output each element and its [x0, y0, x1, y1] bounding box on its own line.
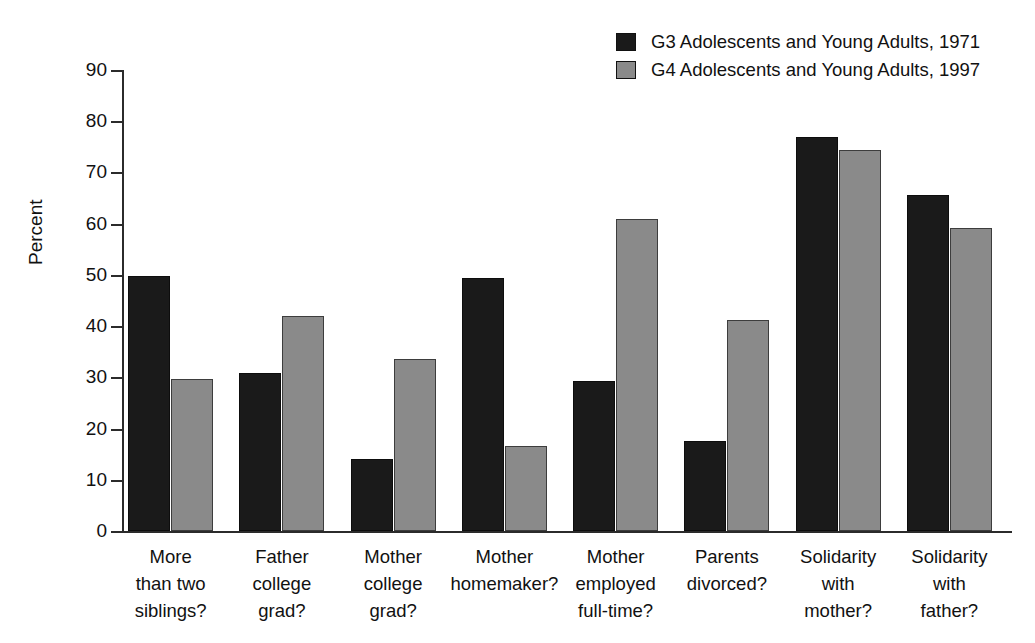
x-axis-category-line: with	[884, 570, 1014, 597]
y-axis-tick-value: 20	[59, 419, 107, 438]
y-axis-tick	[111, 480, 122, 482]
x-axis-category-line: Solidarity	[884, 543, 1014, 570]
y-axis-tick-label: 20	[47, 419, 107, 438]
plot-area: Percent 0102030405060708090	[122, 70, 1012, 531]
y-axis-tick-value: 10	[59, 470, 107, 489]
y-axis-tick-value: 40	[59, 316, 107, 335]
bar	[394, 359, 436, 531]
y-axis-tick	[111, 531, 122, 533]
y-axis-tick	[111, 224, 122, 226]
bar	[907, 195, 949, 531]
legend-item-g3: G3 Adolescents and Young Adults, 1971	[616, 28, 1035, 56]
y-axis-tick	[111, 377, 122, 379]
y-axis-tick-label: 10	[47, 470, 107, 489]
y-axis-tick	[111, 429, 122, 431]
bar	[462, 278, 504, 531]
y-axis-tick-value: 70	[59, 162, 107, 181]
x-axis-labels: Morethan twosiblings?Fathercollegegrad?M…	[122, 543, 1012, 643]
legend-label-g3: G3 Adolescents and Young Adults, 1971	[651, 33, 980, 52]
bar	[616, 219, 658, 531]
bar	[505, 446, 547, 531]
bar	[839, 150, 881, 531]
bar	[684, 441, 726, 531]
bar	[171, 379, 213, 531]
y-axis-title: Percent	[25, 200, 47, 265]
bar	[239, 373, 281, 531]
y-axis-tick-label: 40	[47, 316, 107, 335]
x-axis-category-label: Solidaritywithfather?	[884, 543, 1014, 624]
bar	[796, 137, 838, 531]
y-axis-tick-value: 90	[59, 60, 107, 79]
y-axis-tick-label: 0	[47, 521, 107, 540]
y-axis-tick-label: 50	[47, 265, 107, 284]
y-axis-tick	[111, 121, 122, 123]
x-axis-category-line: father?	[884, 597, 1014, 624]
bar	[950, 228, 992, 531]
y-axis-tick	[111, 172, 122, 174]
legend-swatch-g3-icon	[616, 33, 636, 51]
y-axis-tick-label: 70	[47, 162, 107, 181]
y-axis-tick	[111, 275, 122, 277]
bar	[351, 459, 393, 531]
y-axis-tick-label: 60	[47, 214, 107, 233]
y-axis-tick-label: 80	[47, 111, 107, 130]
y-axis-tick-value: 50	[59, 265, 107, 284]
x-axis-line	[122, 531, 1012, 533]
bar	[727, 320, 769, 531]
y-axis-tick-value: 30	[59, 367, 107, 386]
y-axis-tick-value: 60	[59, 214, 107, 233]
y-axis-tick	[111, 70, 122, 72]
y-axis-line	[122, 70, 124, 532]
bar-chart: G3 Adolescents and Young Adults, 1971 G4…	[0, 0, 1035, 643]
bar	[573, 381, 615, 531]
y-axis-tick	[111, 326, 122, 328]
y-axis-tick-label: 30	[47, 367, 107, 386]
y-axis-tick-label: 90	[47, 60, 107, 79]
y-axis-tick-value: 0	[59, 521, 107, 540]
bar	[128, 276, 170, 531]
bar	[282, 316, 324, 531]
y-axis-tick-value: 80	[59, 111, 107, 130]
